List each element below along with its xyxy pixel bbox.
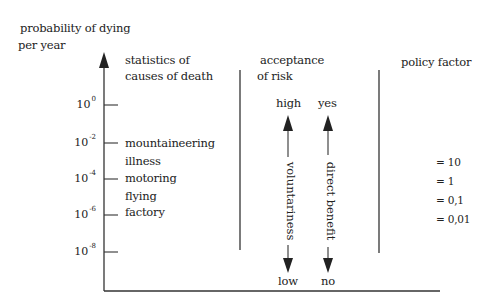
tick-label-1: 10-2 (62, 135, 96, 149)
direct-benefit-down-arrow-icon (323, 258, 333, 273)
direct-benefit-up-arrow-icon (323, 115, 333, 131)
y-axis-title-line1: probability of dying (20, 22, 130, 35)
voluntariness-down-arrow-icon (283, 258, 293, 273)
cause-factory: factory (125, 206, 165, 219)
direct-benefit-bottom-label: no (321, 275, 335, 288)
cause-mountaineering: mountaineering (125, 137, 215, 150)
cause-flying: flying (125, 190, 157, 203)
voluntariness-up-arrow-icon (283, 115, 293, 131)
cause-illness: illness (125, 155, 161, 168)
cause-motoring: motoring (125, 172, 177, 185)
tick-label-2: 10-4 (62, 171, 96, 185)
voluntariness-label: voluntariness (284, 157, 298, 245)
tick-label-3: 10-6 (62, 207, 96, 221)
statistics-header-line2: causes of death (125, 70, 213, 83)
voluntariness-bottom-label: low (278, 275, 298, 288)
tick-label-4: 10-8 (62, 244, 96, 258)
direct-benefit-label: direct benefit (324, 155, 338, 247)
direct-benefit-top-label: yes (318, 97, 337, 110)
statistics-header-line1: statistics of (125, 54, 189, 67)
tick-label-0: 100 (62, 97, 96, 111)
policy-header: policy factor (401, 56, 471, 69)
y-axis-arrowhead-icon (99, 52, 109, 68)
policy-value-2: = 0,1 (436, 194, 464, 207)
diagram-graphics (0, 0, 491, 306)
y-axis-title-line2: per year (18, 39, 65, 52)
acceptance-header-line2: of risk (257, 70, 292, 83)
policy-value-3: = 0,01 (436, 213, 470, 226)
policy-value-1: = 1 (436, 175, 454, 188)
voluntariness-top-label: high (276, 97, 301, 110)
policy-value-0: = 10 (436, 156, 461, 169)
acceptance-header-line1: acceptance (260, 54, 324, 67)
